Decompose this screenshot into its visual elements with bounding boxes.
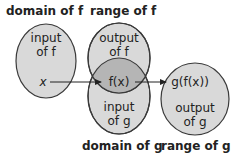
input-of-f-line1: input bbox=[31, 31, 62, 45]
fx-point-label: f(x) bbox=[109, 75, 130, 89]
input-of-f-line2: of f bbox=[36, 45, 56, 59]
gfx-point-label: g(f(x)) bbox=[171, 75, 209, 89]
x-point-label: x bbox=[38, 75, 47, 89]
output-of-g-line1: output bbox=[175, 101, 215, 115]
input-of-g-line1: input bbox=[104, 100, 135, 114]
domain-of-f-label: domain of f bbox=[6, 4, 84, 18]
composition-diagram: domain of f range of f input of f output… bbox=[0, 0, 233, 153]
range-of-f-label: range of f bbox=[90, 4, 157, 18]
output-of-f-line1: output bbox=[99, 31, 139, 45]
input-of-g-line2: of g bbox=[108, 114, 131, 128]
domain-of-g-label: domain of g bbox=[82, 139, 163, 153]
output-of-f-line2: of f bbox=[109, 45, 129, 59]
output-of-g-line2: of g bbox=[184, 115, 207, 129]
range-of-g-label: range of g bbox=[161, 139, 231, 153]
